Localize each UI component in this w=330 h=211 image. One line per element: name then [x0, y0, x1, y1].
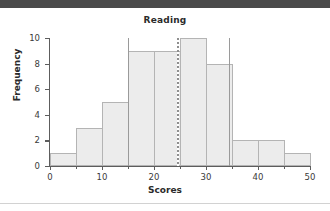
- y-axis-tick-label: 0: [14, 161, 40, 171]
- x-axis-tick: [154, 166, 155, 170]
- x-axis-tick: [206, 166, 207, 170]
- x-axis-tick-label: 50: [295, 172, 325, 182]
- x-axis-minor-tick: [128, 166, 129, 169]
- x-axis-tick-label: 0: [35, 172, 65, 182]
- y-axis-tick-label: 10: [14, 33, 40, 43]
- y-axis-tick-label: 2: [14, 135, 40, 145]
- y-axis-tick: [45, 38, 49, 39]
- histogram-bar: [76, 128, 103, 166]
- x-axis-tick-label: 10: [87, 172, 117, 182]
- x-axis-tick-label: 20: [139, 172, 169, 182]
- y-axis-tick: [45, 166, 49, 167]
- x-axis-minor-tick: [232, 166, 233, 169]
- x-axis-tick: [102, 166, 103, 170]
- bottom-divider: [0, 203, 330, 204]
- chart-title: Reading: [0, 15, 330, 25]
- histogram-bar: [128, 51, 155, 166]
- histogram-bar: [102, 102, 129, 166]
- histogram-bar: [284, 153, 311, 166]
- y-axis-tick-label: 8: [14, 59, 40, 69]
- y-axis-tick-label: 6: [14, 84, 40, 94]
- mean-reference-line: [177, 38, 179, 166]
- upper-reference-line: [229, 38, 230, 166]
- histogram-bar: [50, 153, 77, 166]
- histogram-bar: [232, 140, 259, 166]
- x-axis-label: Scores: [0, 185, 330, 195]
- y-axis-tick: [45, 140, 49, 141]
- x-axis-minor-tick: [180, 166, 181, 169]
- histogram-figure: Reading Frequency Scores 010203040500246…: [0, 8, 330, 203]
- plot-area: [50, 38, 310, 166]
- y-axis-label: Frequency: [12, 40, 22, 110]
- x-axis-tick: [258, 166, 259, 170]
- x-axis-minor-tick: [76, 166, 77, 169]
- y-axis-tick: [45, 89, 49, 90]
- histogram-bar: [180, 38, 207, 166]
- histogram-bar: [258, 140, 285, 166]
- x-axis-tick-label: 40: [243, 172, 273, 182]
- y-axis-tick-label: 4: [14, 110, 40, 120]
- x-axis-tick-label: 30: [191, 172, 221, 182]
- lower-reference-line: [128, 38, 129, 166]
- y-axis-tick: [45, 64, 49, 65]
- x-axis-tick: [50, 166, 51, 170]
- x-axis-tick: [310, 166, 311, 170]
- window-header-bar: [0, 0, 330, 8]
- x-axis-minor-tick: [284, 166, 285, 169]
- y-axis-tick: [45, 115, 49, 116]
